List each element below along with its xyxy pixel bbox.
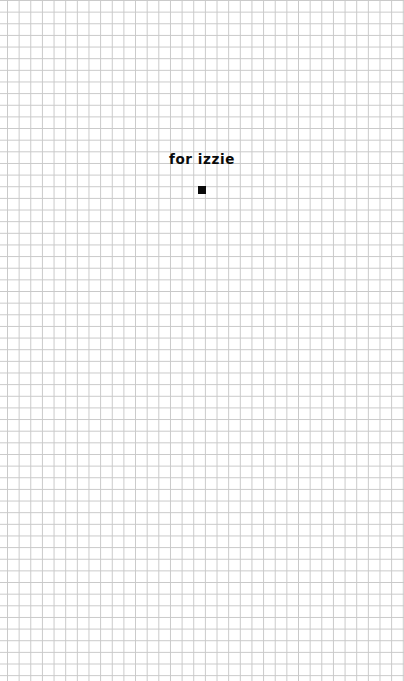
square-icon	[198, 186, 206, 194]
graph-paper-background	[0, 0, 404, 681]
page-title: for izzie	[0, 151, 404, 167]
